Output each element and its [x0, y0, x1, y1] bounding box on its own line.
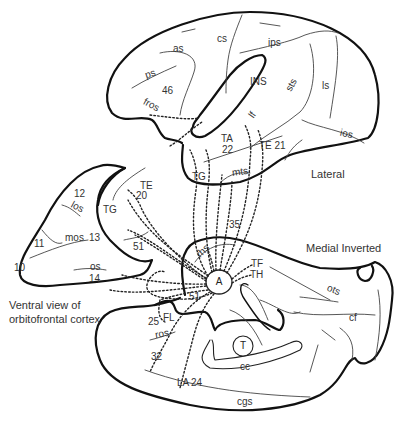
medial-caption: Medial Inverted — [306, 241, 381, 255]
label-tg-ventral: TG — [103, 205, 117, 215]
central-sulcus — [226, 15, 242, 93]
top-sulcus-2 — [260, 23, 280, 26]
label-ta: TA — [221, 134, 233, 144]
label-ins: INS — [250, 77, 267, 87]
label-area-11: 11 — [34, 239, 44, 249]
label-ls: ls — [322, 81, 329, 91]
lateral-caption: Lateral — [311, 167, 345, 181]
label-area-13: 13 — [89, 233, 100, 243]
medial-brain-outline — [96, 237, 393, 410]
medial-sulcus-b — [322, 330, 335, 340]
label-th: TH — [250, 270, 263, 280]
label-area-32: 32 — [151, 352, 162, 362]
label-tf: TF — [251, 259, 263, 269]
label-cs: cs — [217, 34, 227, 44]
superior-temporal-sulcus — [250, 44, 314, 148]
occipitotemporal-sulcus — [270, 267, 330, 300]
medial-sulcus-a — [300, 297, 338, 302]
amygdala-label: A — [212, 276, 226, 287]
label-area-46: 46 — [162, 86, 173, 96]
label-area-25: 25 — [148, 317, 159, 327]
ventral-caption-line1: Ventral view of — [9, 298, 81, 312]
label-area-35: 35 — [229, 220, 240, 230]
label-area-51-ventral: 51 — [133, 242, 144, 252]
label-area-20: 20 — [136, 191, 147, 201]
cingulate-sulcus — [145, 370, 310, 397]
thalamus-label: T — [236, 340, 250, 351]
diagram-drawing — [0, 0, 408, 421]
medial-notch — [358, 266, 374, 281]
label-area-14: 14 — [89, 274, 100, 284]
label-la: LA — [177, 378, 189, 388]
label-cc: cc — [240, 362, 250, 372]
lunate-sulcus — [330, 36, 338, 118]
top-sulcus-1 — [182, 29, 195, 32]
calcarine-fissure — [294, 312, 375, 315]
medial-sulcus-c — [340, 328, 353, 360]
label-cf: cf — [349, 313, 357, 323]
amygdala-connectivity-diagram: Lateral Medial Inverted Ventral view of … — [0, 0, 408, 421]
label-ips: ips — [268, 38, 281, 48]
label-area-51-medial: 51 — [189, 292, 200, 302]
label-te21: TE 21 — [259, 141, 286, 151]
label-area-12: 12 — [74, 189, 85, 199]
intraparietal-sulcus — [240, 31, 338, 53]
insula-outline — [191, 55, 265, 137]
ventral-caption-line2: orbitofrontal cortex — [9, 312, 100, 326]
label-as: as — [173, 44, 184, 54]
label-area-22: 22 — [222, 145, 233, 155]
hippocampal-curve — [240, 285, 268, 320]
inferior-occipital-sulcus — [302, 120, 364, 143]
medial-sulcus-d — [310, 345, 318, 372]
label-fl: FL — [163, 313, 175, 323]
medial-orbital-sulcus-branch — [42, 230, 62, 243]
label-tg-lateral: TG — [192, 172, 206, 182]
label-mos: mos — [65, 233, 84, 243]
arcuate-sulcus — [160, 51, 195, 115]
label-area-10: 10 — [14, 263, 25, 273]
label-os: os — [90, 262, 101, 272]
label-area-24: 24 — [191, 378, 202, 388]
orbitofrontal-outline — [20, 165, 152, 286]
label-cgs: cgs — [237, 397, 253, 407]
